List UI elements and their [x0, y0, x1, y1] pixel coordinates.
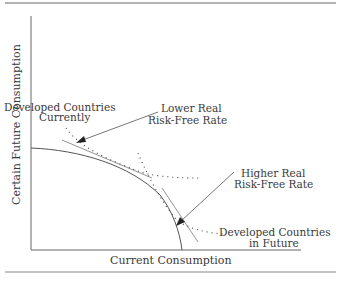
y-axis-label: Certain Future Consumption	[10, 44, 23, 205]
tangent-higher-rate	[162, 188, 198, 242]
arrow-higher-rate	[180, 172, 234, 222]
label-higher-rate-2: Risk-Free Rate	[234, 178, 313, 190]
arrow-lower-rate	[80, 112, 158, 141]
indifference-curve-current	[66, 128, 200, 178]
label-lower-rate-1: Lower Real	[161, 102, 222, 114]
tangent-lower-rate	[62, 140, 152, 178]
x-axis-label: Current Consumption	[110, 254, 232, 267]
arrowhead-lower-rate	[76, 136, 86, 143]
label-developed-current-2: Currently	[39, 111, 90, 123]
diagram-canvas: Developed Countries Currently Lower Real…	[0, 0, 344, 283]
label-lower-rate-2: Risk-Free Rate	[148, 114, 227, 126]
frontier-curve	[31, 148, 182, 250]
label-developed-future-2: in Future	[249, 237, 299, 249]
